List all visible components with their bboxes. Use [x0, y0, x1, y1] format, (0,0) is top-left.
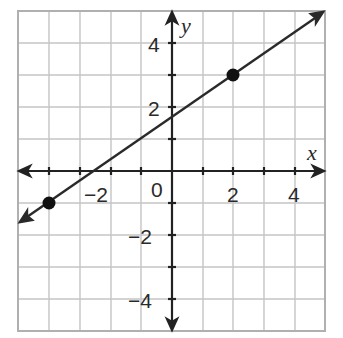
- x-axis-label: x: [306, 140, 317, 165]
- y-tick-label: 4: [148, 33, 160, 56]
- x-tick-label: 2: [227, 183, 239, 206]
- coordinate-plane: y x 0 −2 2 4 4 2 −2 −4: [0, 0, 343, 338]
- y-axis-label: y: [179, 13, 191, 38]
- point-b: [227, 69, 240, 82]
- point-a: [43, 197, 56, 210]
- y-tick-label: −4: [128, 289, 152, 312]
- y-tick-label: 2: [148, 97, 160, 120]
- axes: [19, 12, 324, 330]
- x-tick-label: 4: [288, 183, 300, 206]
- y-tick-label: −2: [128, 225, 152, 248]
- origin-label: 0: [151, 178, 163, 201]
- x-tick-label: −2: [84, 183, 108, 206]
